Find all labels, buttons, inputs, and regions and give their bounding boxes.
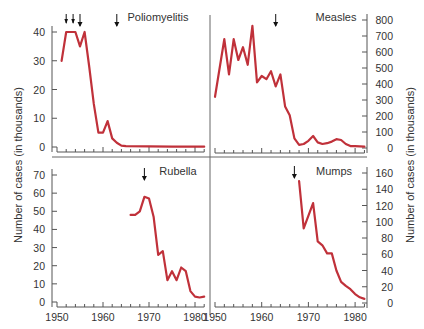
x-tick-label: 1980	[343, 311, 367, 323]
y-tick-label: 80	[381, 232, 393, 244]
panel-title: Rubella	[159, 165, 197, 177]
panel-rubella: 0102030405060701950196019701980Rubella	[33, 165, 207, 323]
y-tick-label: 600	[375, 46, 393, 58]
vaccine-disease-chart: 010203040Poliomyelitis 01002003004005006…	[0, 0, 424, 329]
x-tick-label: 1960	[250, 311, 274, 323]
y-tick-label: 200	[375, 110, 393, 122]
y-tick-label: 100	[375, 216, 393, 228]
y-tick-label: 0	[387, 297, 393, 309]
y-tick-label: 120	[375, 200, 393, 212]
y-tick-label: 20	[33, 260, 45, 272]
panel-measles: 0100200300400500600700800Measles	[215, 11, 393, 154]
y-tick-label: 10	[33, 278, 45, 290]
x-tick-label: 1960	[91, 311, 115, 323]
panel-poliomyelitis: 010203040Poliomyelitis	[33, 11, 204, 153]
y-tick-label: 100	[375, 126, 393, 138]
y-tick-label: 0	[39, 296, 45, 308]
y-tick-label: 40	[381, 265, 393, 277]
y-tick-label: 500	[375, 62, 393, 74]
panel-title: Poliomyelitis	[127, 11, 189, 23]
y-tick-label: 40	[33, 26, 45, 38]
series-line	[62, 32, 205, 147]
y-tick-label: 40	[33, 223, 45, 235]
x-tick-label: 1950	[45, 311, 69, 323]
y-tick-label: 800	[375, 14, 393, 26]
y-tick-label: 20	[33, 84, 45, 96]
series-line	[215, 26, 364, 147]
y-tick-label: 20	[381, 281, 393, 293]
y-tick-label: 400	[375, 78, 393, 90]
series-line	[131, 197, 205, 298]
arrow-head-icon	[114, 22, 119, 27]
y-tick-label: 30	[33, 55, 45, 67]
arrow-head-icon	[273, 22, 278, 27]
y-tick-label: 300	[375, 94, 393, 106]
arrow-head-icon	[142, 176, 147, 181]
arrow-head-icon	[292, 174, 297, 179]
x-tick-label: 1970	[297, 311, 321, 323]
y-tick-label: 700	[375, 30, 393, 42]
y-tick-label: 60	[33, 187, 45, 199]
y-tick-label: 0	[39, 141, 45, 153]
arrow-head-icon	[64, 19, 68, 24]
y-tick-label: 30	[33, 242, 45, 254]
y-tick-label: 160	[375, 167, 393, 179]
arrow-head-icon	[71, 19, 75, 24]
series-line	[299, 181, 364, 299]
arrow-head-icon	[78, 22, 83, 27]
y-tick-label: 60	[381, 248, 393, 260]
x-tick-label: 1950	[203, 311, 227, 323]
y-tick-label: 0	[387, 142, 393, 154]
x-tick-label: 1970	[137, 311, 161, 323]
y-tick-label: 140	[375, 183, 393, 195]
y-axis-label-left: Number of cases (in thousands)	[12, 87, 24, 243]
panel-mumps: 0204060801001201401601950196019701980Mum…	[203, 165, 393, 323]
y-axis-label-right: Number of cases (in thousands)	[404, 87, 416, 243]
panel-title: Mumps	[316, 165, 353, 177]
panel-title: Measles	[316, 11, 357, 23]
y-tick-label: 50	[33, 205, 45, 217]
y-tick-label: 70	[33, 169, 45, 181]
y-tick-label: 10	[33, 112, 45, 124]
